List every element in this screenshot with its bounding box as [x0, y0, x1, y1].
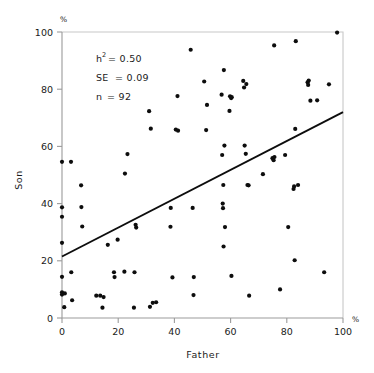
data-point [204, 128, 208, 132]
data-point [220, 93, 224, 97]
scatter-plot-figure: 020406080100 020406080100 Father Son % %… [0, 0, 374, 373]
x-tick-label: 100 [334, 326, 352, 337]
data-point [168, 225, 172, 229]
data-point [100, 306, 104, 310]
data-point [116, 238, 120, 242]
data-point [223, 225, 227, 229]
data-point [191, 293, 195, 297]
data-point [60, 241, 64, 245]
y-tick-label: 0 [47, 313, 53, 324]
regression-fit-line [62, 112, 343, 256]
data-point [306, 83, 310, 87]
data-point [220, 153, 224, 157]
x-tick-label: 80 [281, 326, 293, 337]
data-point [278, 287, 282, 291]
data-point [307, 79, 311, 83]
data-point [79, 183, 83, 187]
data-point [293, 127, 297, 131]
data-point [192, 275, 196, 279]
x-tick-label: 0 [59, 326, 65, 337]
data-point [247, 294, 251, 298]
data-point [69, 270, 73, 274]
data-point [230, 95, 234, 99]
data-point [335, 30, 339, 34]
data-point [243, 143, 247, 147]
data-point [222, 68, 226, 72]
data-point [283, 153, 287, 157]
scatter-plot-svg: 020406080100 020406080100 Father Son % %… [0, 0, 374, 373]
data-point [292, 184, 296, 188]
data-point [123, 171, 127, 175]
heritability-superscript: 2 [102, 51, 106, 59]
data-point [242, 85, 246, 89]
data-point [244, 152, 248, 156]
x-axis-tick-labels: 020406080100 [59, 326, 352, 337]
data-point [132, 306, 136, 310]
data-point [189, 48, 193, 52]
statistics-annotation: h 2 = 0.50 SE = 0.09 n = 92 [96, 51, 149, 102]
data-point [80, 224, 84, 228]
data-point [101, 295, 105, 299]
data-point [315, 98, 319, 102]
data-point [125, 152, 129, 156]
y-axis-unit-label: % [60, 15, 67, 24]
y-tick-label: 20 [41, 255, 53, 266]
data-point [241, 79, 245, 83]
data-point [294, 39, 298, 43]
n-label: n [96, 91, 102, 102]
data-point [70, 298, 74, 302]
data-point [69, 160, 73, 164]
data-point [62, 305, 66, 309]
data-point [112, 270, 116, 274]
se-value: = 0.09 [115, 72, 149, 83]
heritability-value: = 0.50 [108, 53, 142, 64]
data-point [170, 275, 174, 279]
regression-line [62, 112, 343, 256]
data-point [272, 155, 276, 159]
data-point [205, 103, 209, 107]
data-point [222, 143, 226, 147]
data-point [221, 183, 225, 187]
data-point [169, 206, 173, 210]
y-tick-label: 40 [41, 198, 53, 209]
data-point [286, 225, 290, 229]
x-axis-title: Father [186, 349, 220, 360]
data-point [272, 43, 276, 47]
data-point [221, 206, 225, 210]
data-point [246, 183, 250, 187]
data-point [229, 274, 233, 278]
y-axis-title: Son [13, 170, 24, 190]
data-point [94, 294, 98, 298]
y-tick-label: 60 [41, 141, 53, 152]
data-point [221, 202, 225, 206]
data-point [293, 258, 297, 262]
data-point [202, 79, 206, 83]
y-axis-tick-labels: 020406080100 [35, 27, 53, 324]
data-point [227, 109, 231, 113]
data-point [175, 94, 179, 98]
data-point [79, 205, 83, 209]
y-tick-label: 100 [35, 27, 53, 38]
data-point [176, 129, 180, 133]
data-point [60, 215, 64, 219]
data-point [296, 183, 300, 187]
n-value: = 92 [107, 91, 131, 102]
x-axis-unit-label: % [352, 315, 359, 324]
data-point [308, 99, 312, 103]
data-point [134, 226, 138, 230]
data-point [191, 206, 195, 210]
data-point [327, 82, 331, 86]
data-point [106, 243, 110, 247]
data-point [60, 160, 64, 164]
data-point [112, 275, 116, 279]
data-point [63, 291, 67, 295]
data-point [148, 305, 152, 309]
data-point [147, 109, 151, 113]
y-tick-label: 80 [41, 84, 53, 95]
data-point [122, 270, 126, 274]
x-tick-label: 40 [168, 326, 180, 337]
data-point [322, 270, 326, 274]
x-tick-label: 20 [112, 326, 124, 337]
se-label: SE [96, 72, 109, 83]
data-point [60, 275, 64, 279]
